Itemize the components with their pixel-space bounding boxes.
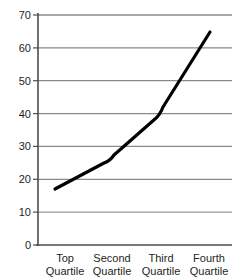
y-tick-label-40: 40 [19, 108, 31, 120]
x-tick-label-2-line2: Quartile [93, 265, 132, 277]
x-tick-label-3-line2: Quartile [142, 265, 181, 277]
y-tick-label-0: 0 [25, 239, 31, 251]
chart-background [0, 0, 244, 280]
y-tick-label-50: 50 [19, 75, 31, 87]
y-tick-label-20: 20 [19, 173, 31, 185]
line-chart: 70 60 50 40 30 20 10 0 Top Quartile Seco… [0, 0, 244, 280]
chart-canvas: 70 60 50 40 30 20 10 0 Top Quartile Seco… [0, 0, 244, 280]
x-tick-label-1-line2: Quartile [46, 265, 85, 277]
y-tick-label-30: 30 [19, 140, 31, 152]
x-tick-label-1-line1: Top [56, 252, 74, 264]
x-tick-label-2-line1: Second [93, 252, 130, 264]
x-tick-label-4-line2: Quartile [190, 265, 229, 277]
x-tick-label-3-line1: Third [148, 252, 173, 264]
x-tick-label-4-line1: Fourth [193, 252, 225, 264]
y-tick-label-10: 10 [19, 206, 31, 218]
y-tick-label-70: 70 [19, 9, 31, 21]
y-tick-label-60: 60 [19, 42, 31, 54]
